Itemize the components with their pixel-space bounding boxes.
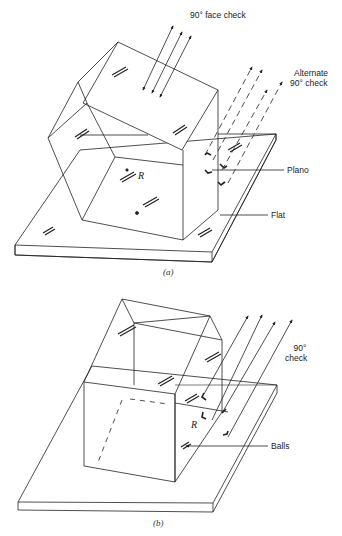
face-check-label: 90° face check — [190, 10, 246, 20]
r-label-b: R — [191, 419, 197, 430]
caption-a: (a) — [163, 267, 174, 277]
figure-b — [18, 299, 292, 512]
alternate-check-label-line2: 90° check — [290, 78, 327, 88]
check-label-line2: check — [285, 353, 307, 363]
alternate-check-label-line1: Alternate — [294, 68, 328, 78]
caption-b: (b) — [153, 518, 164, 528]
check-label-line1: 90° — [287, 343, 313, 353]
flat-label: Flat — [271, 210, 285, 220]
balls-label: Balls — [271, 441, 289, 451]
r-label-a: R — [138, 170, 144, 181]
plano-label: Plano — [287, 165, 309, 175]
figure-a — [15, 26, 284, 262]
